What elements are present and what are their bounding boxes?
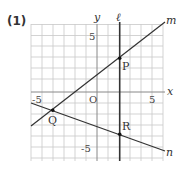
origin-label: O: [89, 94, 97, 105]
point-p: [118, 57, 122, 61]
x-axis-label: x: [167, 85, 174, 98]
line-l-label: ℓ: [116, 11, 121, 24]
line-m-label: m: [166, 14, 176, 27]
point-q-label: Q: [48, 114, 57, 127]
point-q: [51, 109, 55, 113]
y-axis-label: y: [93, 11, 101, 24]
point-r: [118, 133, 122, 137]
problem-label: (1): [7, 14, 26, 28]
coordinate-diagram: (1) y ℓ m x n: [0, 0, 187, 173]
point-p-label: P: [122, 60, 130, 73]
point-r-label: R: [122, 120, 131, 133]
y-tick-5: 5: [89, 31, 95, 42]
y-tick-neg5: -5: [81, 143, 91, 154]
x-tick-5: 5: [149, 94, 155, 105]
x-tick-neg5: -5: [32, 94, 42, 105]
line-n-label: n: [166, 146, 173, 159]
